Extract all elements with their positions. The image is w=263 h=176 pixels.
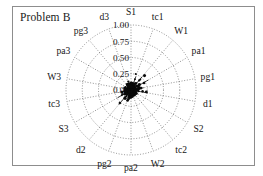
axis-label-d3: d3 (100, 11, 110, 22)
data-point (126, 95, 128, 97)
axis-label-tc3: tc3 (48, 98, 60, 109)
axis-label-pa2: pa2 (124, 162, 138, 173)
axis-label-d1: d1 (203, 98, 213, 109)
axis-label-W1: W1 (174, 25, 188, 36)
axis-label-pa3: pa3 (57, 45, 71, 56)
data-point (136, 88, 140, 92)
axis-label-S2: S2 (193, 123, 203, 134)
data-point (135, 85, 137, 87)
polar-chart: S1tc1W1pa1pg1d1S2tc2W2pa2pg2d2S3tc3W3pa3… (0, 0, 263, 176)
axis-label-pg2: pg2 (97, 158, 112, 169)
axis-label-pg1: pg1 (201, 71, 216, 82)
grid-spoke-tc2 (131, 90, 173, 140)
axis-label-S3: S3 (58, 123, 68, 134)
data-point (120, 91, 123, 94)
data-point (119, 102, 121, 104)
grid-spoke-pg3 (89, 40, 131, 90)
data-point (141, 90, 143, 92)
data-point (127, 80, 129, 82)
grid-spoke-W2 (131, 90, 153, 151)
data-point (139, 84, 141, 86)
data-point (135, 73, 137, 75)
axis-label-W2: W2 (151, 158, 165, 169)
axis-label-pg3: pg3 (74, 25, 89, 36)
data-point (143, 74, 146, 77)
axis-label-pa1: pa1 (192, 45, 206, 56)
data-point (130, 95, 133, 98)
axis-label-tc1: tc1 (152, 11, 164, 22)
axis-label-d2: d2 (76, 144, 86, 155)
data-point (131, 89, 133, 91)
axis-label-S1: S1 (126, 6, 136, 17)
data-point (138, 79, 140, 81)
figure-container: Problem B S1tc1W1pa1pg1d1S2tc2W2pa2pg2d2… (0, 0, 263, 176)
grid-spoke-S2 (131, 90, 187, 123)
data-point (128, 90, 131, 93)
data-point (145, 91, 148, 94)
data-point (134, 78, 136, 80)
data-point (126, 99, 129, 102)
axis-label-W3: W3 (47, 71, 61, 82)
radial-tick-0.25: 0.25 (113, 69, 129, 79)
data-point (123, 97, 126, 100)
data-point (143, 82, 146, 85)
data-point (128, 88, 130, 90)
data-point (125, 86, 127, 88)
radial-tick-1.00: 1.00 (113, 20, 129, 30)
radial-tick-0.75: 0.75 (113, 37, 129, 47)
radial-tick-0.50: 0.50 (113, 53, 129, 63)
data-point (135, 92, 138, 95)
axis-label-tc2: tc2 (175, 144, 187, 155)
data-point (129, 86, 131, 88)
